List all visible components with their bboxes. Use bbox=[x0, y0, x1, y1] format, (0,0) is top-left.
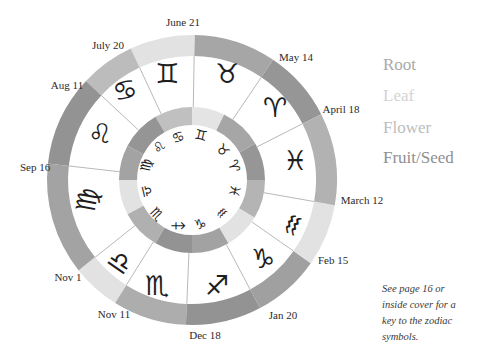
aries-inner-symbol-icon: ♈ bbox=[225, 158, 244, 175]
aries-symbol-icon: ♈ bbox=[263, 92, 287, 123]
taurus-symbol-icon: ♉ bbox=[215, 58, 239, 89]
date-label: July 20 bbox=[92, 39, 125, 51]
cancer-inner-symbol-icon: ♋ bbox=[169, 127, 186, 146]
pisces-inner-symbol-icon: ♓ bbox=[226, 183, 244, 199]
divider-line bbox=[69, 166, 120, 172]
cancer-symbol-icon: ♋ bbox=[109, 72, 140, 108]
date-label: Dec 18 bbox=[189, 329, 221, 341]
aquarius-inner-symbol-icon: ♒ bbox=[212, 203, 232, 223]
note-line: See page 16 or bbox=[382, 281, 456, 297]
legend-flower: Flower bbox=[383, 119, 431, 136]
date-label: Nov 11 bbox=[98, 308, 130, 320]
capricorn-symbol-icon: ♑ bbox=[251, 243, 275, 274]
inner-zodiac-symbols: ♈♉♊♋♌♍♎♏♐♑♒♓ bbox=[137, 126, 244, 236]
legend-fruit-seed: Fruit/Seed bbox=[383, 149, 454, 166]
libra-inner-symbol-icon: ♎ bbox=[138, 183, 156, 199]
date-label: March 12 bbox=[341, 194, 383, 206]
virgo-inner-symbol-icon: ♍ bbox=[137, 157, 155, 173]
taurus-inner-symbol-icon: ♉ bbox=[213, 140, 233, 160]
note-line: inside cover for a bbox=[382, 297, 456, 313]
virgo-symbol-icon: ♍ bbox=[70, 185, 105, 214]
note-line: symbols. bbox=[382, 329, 456, 345]
scorpio-symbol-icon: ♏ bbox=[145, 270, 169, 301]
inner-zodiac-ring bbox=[119, 107, 265, 253]
outer-zodiac-symbols: ♈♉♊♋♌♍♎♏♐♑♒♓ bbox=[70, 58, 313, 301]
divider-line bbox=[257, 124, 302, 147]
pisces-symbol-icon: ♓ bbox=[283, 145, 307, 176]
date-label: June 21 bbox=[166, 16, 200, 28]
date-label: Aug 11 bbox=[51, 79, 83, 91]
date-label: Jan 20 bbox=[269, 309, 298, 321]
divider-line bbox=[264, 193, 314, 202]
capricorn-inner-symbol-icon: ♑ bbox=[192, 215, 207, 233]
note-line: key to the zodiac bbox=[382, 313, 456, 329]
leo-symbol-icon: ♌ bbox=[88, 118, 112, 149]
outer-segment-pisces bbox=[302, 114, 337, 205]
date-label: May 14 bbox=[279, 51, 313, 63]
outer-segment-virgo bbox=[47, 164, 95, 271]
gemini-inner-symbol-icon: ♊ bbox=[193, 126, 209, 144]
divider-line bbox=[226, 244, 250, 289]
zodiac-planting-wheel-figure: ♈♉♊♋♌♍♎♏♐♑♒♓ ♈♉♊♋♌♍♎♏♐♑♒♓ June 21July 20… bbox=[0, 0, 480, 359]
zodiac-key-note: See page 16 or inside cover for a key to… bbox=[382, 281, 456, 345]
divider-line bbox=[193, 56, 194, 107]
divider-line bbox=[187, 253, 189, 304]
legend-root: Root bbox=[383, 56, 416, 73]
date-label: Sep 16 bbox=[20, 161, 51, 173]
legend-leaf: Leaf bbox=[383, 87, 414, 104]
sagittarius-symbol-icon: ♐ bbox=[205, 270, 229, 301]
date-label: April 18 bbox=[323, 103, 360, 115]
date-label: Feb 15 bbox=[318, 254, 349, 266]
gemini-symbol-icon: ♊ bbox=[155, 58, 179, 89]
date-label: Nov 1 bbox=[54, 271, 81, 283]
outer-constellation-ring bbox=[47, 35, 337, 325]
